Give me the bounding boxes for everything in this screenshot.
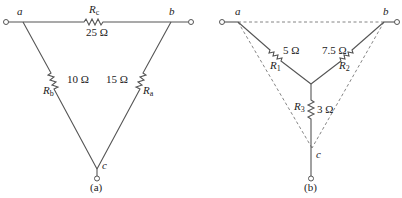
resistor-rc: [9, 19, 189, 25]
resistor-rb-name: Rb: [43, 85, 54, 98]
terminal-a: [4, 20, 9, 25]
resistor-r1-name: R1: [270, 60, 281, 73]
resistor-r3: [308, 84, 314, 176]
terminal-a: [220, 20, 225, 25]
resistor-r2-name: R2: [339, 60, 350, 73]
resistor-r3-value: 3 Ω: [317, 104, 333, 115]
caption-b: (b): [304, 182, 317, 193]
resistor-rb: [23, 22, 97, 169]
resistor-ra-value: 15 Ω: [106, 74, 128, 85]
node-label-b: b: [169, 6, 175, 17]
node-label-a: a: [235, 6, 241, 17]
resistor-r2-value: 7.5 Ω: [322, 45, 347, 56]
resistor-r1: [238, 22, 311, 84]
node-label-b: b: [383, 6, 389, 17]
resistor-r3-name: R3: [294, 101, 305, 114]
node-label-a: a: [17, 6, 23, 17]
node-label-c: c: [102, 160, 107, 171]
resistor-ra: [97, 22, 171, 169]
resistor-ra-name: Ra: [143, 85, 153, 98]
resistor-rc-name: Rc: [89, 4, 99, 17]
node-label-c: c: [316, 149, 321, 160]
resistor-rb-value: 10 Ω: [67, 74, 89, 85]
wye-network: [220, 20, 400, 182]
terminal-b: [189, 20, 194, 25]
delta-network: [4, 19, 194, 181]
terminal-b: [395, 20, 400, 25]
dashed-bc: [312, 22, 384, 148]
circuit-diagram: [0, 0, 402, 198]
dashed-ac: [238, 22, 312, 148]
caption-a: (a): [90, 182, 102, 193]
resistor-r1-value: 5 Ω: [283, 45, 299, 56]
resistor-rc-value: 25 Ω: [86, 27, 108, 38]
